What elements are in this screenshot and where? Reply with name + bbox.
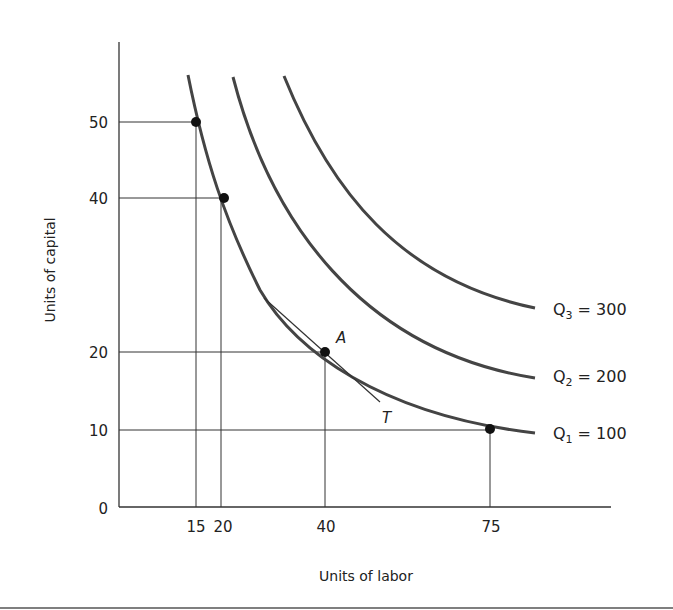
svg-text:50: 50 [89,114,108,132]
isoquant-q2-curve [233,77,535,378]
point-20-40 [219,193,229,203]
svg-text:40: 40 [316,518,335,536]
point-75-10 [485,424,495,434]
svg-text:20: 20 [213,518,232,536]
point-a [320,347,330,357]
label-q2: Q2= 200 [553,367,627,389]
svg-text:0: 0 [98,500,108,518]
y-axis-title: Units of capital [42,217,58,322]
svg-text:20: 20 [89,344,108,362]
isoquant-q1-curve [188,75,535,433]
label-q1: Q1= 100 [553,424,627,446]
y-tick-labels: 50 40 20 10 0 [89,114,108,518]
guide-lines [119,122,490,507]
svg-text:40: 40 [89,190,108,208]
x-tick-labels: 15 20 40 75 [186,518,500,536]
svg-text:15: 15 [186,518,205,536]
point-a-label: A [335,329,346,347]
svg-text:10: 10 [89,422,108,440]
tangent-label: T [382,409,393,427]
marked-points [191,117,495,434]
label-q3: Q3= 300 [553,300,627,322]
x-axis-title: Units of labor [319,568,413,584]
point-15-50 [191,117,201,127]
isoquant-chart: A T 50 40 20 10 0 15 20 40 75 Units of l… [0,0,673,610]
svg-text:75: 75 [481,518,500,536]
isoquant-q3-curve [284,76,535,308]
isoquant-labels: Q3= 300 Q2= 200 Q1= 100 [553,300,627,446]
